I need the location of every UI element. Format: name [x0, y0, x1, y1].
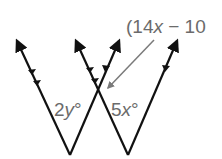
- angle-label-5x: 5x°: [111, 99, 139, 120]
- line-1: [17, 41, 70, 155]
- angle-label-2y: 2y°: [54, 99, 82, 120]
- angle-label-14x-10: (14x − 10: [126, 16, 206, 37]
- parallel-lines-diagram: 2y° 5x° (14x − 10: [0, 0, 222, 159]
- line-4: [128, 41, 177, 155]
- line-3: [76, 41, 128, 155]
- line-2: [70, 41, 119, 155]
- callout-arrow-icon: [108, 40, 154, 88]
